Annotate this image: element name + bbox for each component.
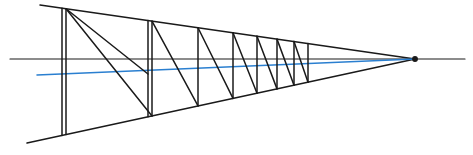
diagonal-line — [198, 28, 233, 99]
diagonal-line — [277, 39, 294, 85]
vanishing-point — [413, 57, 417, 61]
diagonal-line — [233, 33, 257, 93]
diagonal-line — [66, 9, 152, 116]
diagonal-line — [257, 36, 277, 89]
perspective-diagram — [0, 0, 473, 155]
bottom-edge-line — [27, 59, 415, 143]
center-guide-line — [37, 59, 415, 75]
diagonal-line — [294, 42, 308, 83]
diagonal-line — [152, 21, 198, 106]
